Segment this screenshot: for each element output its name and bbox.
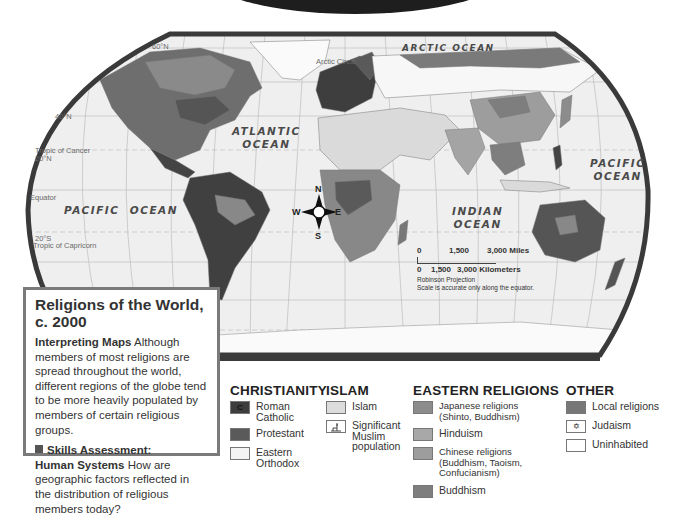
interpreting-label: Interpreting Maps <box>35 336 131 348</box>
islam-swatch <box>326 401 346 414</box>
indian-line2: OCEAN <box>452 218 503 231</box>
legend-item-chinese: Chinese religions (Buddhism, Taoism, Con… <box>413 447 559 479</box>
legend-item-islam: Islam <box>326 401 412 414</box>
human-systems-label: Human Systems <box>35 459 124 471</box>
pacific-east-line2: OCEAN <box>590 170 645 183</box>
significant-muslim-label: Significant Muslim population <box>352 420 412 452</box>
projection-label: Robinson Projection <box>417 276 537 284</box>
buddhism-swatch <box>413 485 433 498</box>
scale-km-0: 0 <box>417 265 421 274</box>
compass-w: W <box>292 207 301 217</box>
scale-bar <box>417 257 496 264</box>
local-religions-label: Local religions <box>592 401 659 412</box>
legend-christianity-title: CHRISTIANITY <box>230 383 327 398</box>
protestant-swatch <box>230 428 250 441</box>
interpreting-maps-text: Interpreting Maps Although members of mo… <box>35 335 208 437</box>
legend-islam: ISLAM Islam Significant Muslim populatio… <box>326 383 412 458</box>
bullet-square-icon <box>35 445 43 453</box>
scale-km-3000: 3,000 Kilometers <box>457 265 521 274</box>
atlantic-line1: ATLANTIC <box>232 125 301 138</box>
skills-label: Skills Assessment: <box>47 444 151 456</box>
buddhism-label: Buddhism <box>439 485 486 496</box>
arctic-circle-label: Arctic Circle <box>316 57 356 66</box>
scale-note: Scale is accurate only along the equator… <box>417 284 537 292</box>
legend-item-uninhabited: Uninhabited <box>566 439 659 452</box>
pacific-ocean-west-label: PACIFIC OCEAN <box>64 204 178 217</box>
uninhabited-label: Uninhabited <box>592 439 648 450</box>
lat-40n-label: 40°N <box>55 112 72 121</box>
compass-e: E <box>335 207 341 217</box>
scale-mi-1500: 1,500 <box>449 246 469 255</box>
mosque-icon <box>326 420 346 433</box>
legend-islam-title: ISLAM <box>326 383 412 398</box>
compass-n: N <box>315 184 322 194</box>
lat-20s-label: 20°S <box>35 234 51 243</box>
map-scale: 0 1,500 3,000 Miles 0 1,500 3,000 Kilome… <box>417 246 537 292</box>
legend-item-japanese: Japanese religions (Shinto, Buddhism) <box>413 401 559 422</box>
lat-60n-label: 60°N <box>152 42 169 51</box>
legend-item-hinduism: Hinduism <box>413 428 559 441</box>
lat-20n-label: 20°N <box>35 154 52 163</box>
local-religions-swatch <box>566 401 586 414</box>
scale-km-1500: 1,500 <box>431 265 451 274</box>
atlantic-ocean-label: ATLANTIC OCEAN <box>232 125 301 151</box>
legend-item-eastern-orthodox: Eastern Orthodox <box>230 447 327 468</box>
legend-eastern-title: EASTERN RELIGIONS <box>413 383 559 398</box>
star-of-david-icon: ✡ <box>566 420 586 433</box>
info-title: Religions of the World, c. 2000 <box>35 296 208 330</box>
roman-catholic-swatch: C <box>230 401 250 414</box>
legend-item-buddhism: Buddhism <box>413 485 559 498</box>
pacific-east-line1: PACIFIC <box>590 157 645 170</box>
compass-s: S <box>315 231 321 241</box>
eastern-orthodox-swatch <box>230 447 250 460</box>
legend-other-title: OTHER <box>566 383 659 398</box>
protestant-label: Protestant <box>256 428 304 439</box>
legend-item-significant-muslim: Significant Muslim population <box>326 420 412 452</box>
japanese-religions-label: Japanese religions (Shinto, Buddhism) <box>439 401 539 422</box>
scale-mi-0: 0 <box>417 246 421 255</box>
chinese-religions-swatch <box>413 447 433 460</box>
judaism-label: Judaism <box>592 420 631 431</box>
chinese-religions-label: Chinese religions (Buddhism, Taoism, Con… <box>439 447 534 479</box>
legend-christianity: CHRISTIANITY C Roman Catholic Protestant… <box>230 383 327 474</box>
roman-catholic-label: Roman Catholic <box>256 401 316 422</box>
hinduism-swatch <box>413 428 433 441</box>
interpreting-body: Although members of most religions are s… <box>35 336 206 436</box>
legend-eastern-religions: EASTERN RELIGIONS Japanese religions (Sh… <box>413 383 559 504</box>
scale-miles: 0 1,500 3,000 Miles <box>417 246 537 256</box>
eastern-orthodox-label: Eastern Orthodox <box>256 447 316 468</box>
legend-item-judaism: ✡ Judaism <box>566 420 659 433</box>
pacific-ocean-east-label: PACIFIC OCEAN <box>590 157 645 183</box>
uninhabited-swatch <box>566 439 586 452</box>
legend-other: OTHER Local religions ✡ Judaism Uninhabi… <box>566 383 659 458</box>
info-box: Religions of the World, c. 2000 Interpre… <box>23 287 220 456</box>
arctic-ocean-label: ARCTIC OCEAN <box>402 42 495 55</box>
equator-label: Equator <box>30 193 56 202</box>
hinduism-label: Hinduism <box>439 428 483 439</box>
atlantic-line2: OCEAN <box>232 138 301 151</box>
scale-mi-3000: 3,000 Miles <box>487 246 529 255</box>
islam-label: Islam <box>352 401 377 412</box>
japanese-religions-swatch <box>413 401 433 414</box>
scale-km: 0 1,500 3,000 Kilometers <box>417 265 537 275</box>
legend-item-protestant: Protestant <box>230 428 327 441</box>
legend-item-local-religions: Local religions <box>566 401 659 414</box>
indian-line1: INDIAN <box>452 205 503 218</box>
indian-ocean-label: INDIAN OCEAN <box>452 205 503 231</box>
skills-assessment-text: Skills Assessment: Human Systems How are… <box>35 443 208 516</box>
legend-item-roman-catholic: C Roman Catholic <box>230 401 327 422</box>
